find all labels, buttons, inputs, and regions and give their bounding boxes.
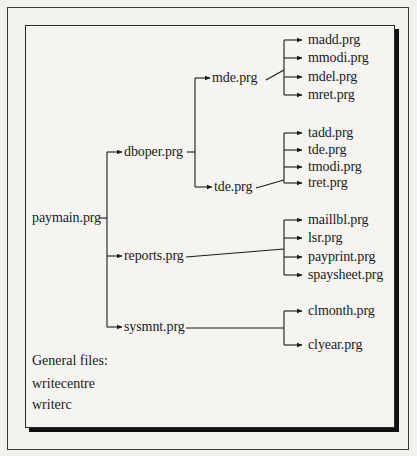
general-file-item: writecentre [32, 376, 95, 392]
node-lsr: lsr.prg [308, 230, 342, 246]
node-maillbl: maillbl.prg [308, 212, 368, 228]
node-clmonth: clmonth.prg [308, 303, 375, 319]
node-clyear: clyear.prg [308, 337, 362, 353]
general-files-heading: General files: [32, 353, 108, 369]
node-sysmnt: sysmnt.prg [124, 319, 185, 335]
node-tmodi: tmodi.prg [308, 159, 362, 175]
node-tret: tret.prg [308, 175, 348, 191]
general-file-item: writerc [32, 397, 72, 413]
node-payprint: payprint.prg [308, 249, 375, 265]
diagram-page: paymain.prg dboper.prg reports.prg sysmn… [0, 0, 417, 456]
node-spaysheet: spaysheet.prg [308, 267, 383, 283]
node-paymain: paymain.prg [32, 210, 101, 226]
node-dboper: dboper.prg [124, 144, 183, 160]
node-madd: madd.prg [308, 32, 360, 48]
node-mde: mde.prg [212, 70, 257, 86]
node-mret: mret.prg [308, 87, 355, 103]
node-reports: reports.prg [124, 248, 184, 264]
node-mmodi: mmodi.prg [308, 50, 369, 66]
node-tde: tde.prg [214, 179, 252, 195]
node-mdel: mdel.prg [308, 69, 357, 85]
node-tadd: tadd.prg [308, 125, 353, 141]
node-tde-child: tde.prg [308, 142, 346, 158]
